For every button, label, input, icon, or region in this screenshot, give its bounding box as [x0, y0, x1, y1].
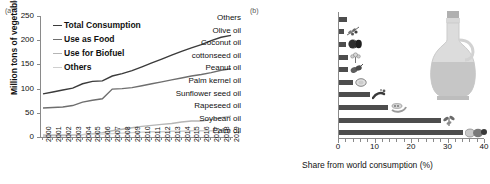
x-tick-mark — [477, 139, 478, 142]
x-tick-mark — [82, 137, 83, 140]
bar — [339, 42, 346, 47]
x-tick-label: 40 — [480, 143, 489, 151]
x-tick-mark — [210, 137, 211, 140]
bar-row — [339, 89, 386, 102]
bar-row — [339, 76, 367, 89]
bar — [339, 55, 348, 60]
category-label: cottonseed oil — [192, 52, 241, 60]
x-tick-mark — [462, 139, 463, 142]
x-tick-mark — [111, 137, 112, 140]
category-label: Rapeseed oil — [194, 102, 241, 110]
x-tick-mark — [220, 137, 221, 140]
x-tick-mark — [121, 137, 122, 140]
category-label: Peanut oil — [205, 64, 241, 72]
y-tick-label: 50 — [12, 109, 34, 117]
x-tick-mark — [131, 137, 132, 140]
legend-label: Use as Food — [64, 34, 115, 44]
x-tick-mark — [382, 139, 383, 142]
panel-b-label: (b) — [250, 7, 259, 14]
coconut-icon — [348, 39, 362, 49]
bar-row — [339, 38, 362, 51]
bar — [339, 130, 463, 135]
x-axis-b: 010203040 — [338, 138, 484, 139]
legend-swatch-icon — [53, 67, 62, 68]
x-tick-mark — [190, 137, 191, 140]
x-tick-mark — [345, 139, 346, 142]
legend-item: Use for Biofuel — [53, 46, 141, 60]
bar-row — [339, 101, 408, 114]
bar-row — [339, 114, 456, 127]
x-tick-label: 10 — [370, 143, 379, 151]
x-tick-mark — [360, 139, 361, 142]
bar — [339, 67, 348, 72]
x-tick-mark — [418, 139, 419, 142]
category-label: Olive oil — [213, 27, 241, 35]
x-tick-mark — [440, 139, 441, 142]
figure-container: (a) Million tons of vegetable oil 050100… — [0, 0, 490, 184]
category-label: Palm kernel oil — [189, 77, 241, 85]
bar — [339, 118, 441, 123]
x-tick-label: 20 — [407, 143, 416, 151]
x-tick-mark — [62, 137, 63, 140]
y-tick-label: 0 — [12, 133, 34, 141]
legend-item: Others — [53, 60, 141, 74]
bar — [339, 92, 370, 97]
x-tick-mark — [426, 139, 427, 142]
bar-row — [339, 26, 360, 39]
cotton-boll-icon — [350, 51, 361, 63]
bar — [339, 29, 344, 34]
category-label: Sunflower seed oil — [176, 90, 241, 98]
legend-a: Total Consumption Use as Food Use for Bi… — [53, 18, 141, 74]
y-tick-label: 100 — [12, 85, 34, 93]
x-tick-mark — [455, 139, 456, 142]
peanut-icon — [350, 64, 363, 75]
y-tick-label: 200 — [12, 36, 34, 44]
x-tick-mark — [52, 137, 53, 140]
x-tick-mark — [151, 137, 152, 140]
y-tick-label: 150 — [12, 60, 34, 68]
x-tick-mark — [42, 137, 43, 140]
legend-swatch-icon — [53, 53, 62, 54]
y-tick-label: 250 — [12, 12, 34, 20]
bar — [339, 17, 347, 22]
panel-b-bar-chart: (b) Palm oilSoybean oilRapeseed oilSunfl… — [245, 0, 490, 184]
legend-label: Others — [64, 62, 91, 72]
x-tick-mark — [171, 137, 172, 140]
bar — [339, 80, 353, 85]
x-tick-mark — [141, 137, 142, 140]
bar-row — [339, 51, 361, 64]
x-tick-mark — [353, 139, 354, 142]
soybean-plant-icon — [443, 114, 456, 127]
legend-label: Use for Biofuel — [64, 48, 124, 58]
x-tick-mark — [367, 139, 368, 142]
category-label: Palm oil — [213, 127, 241, 135]
x-tick-mark — [404, 139, 405, 142]
x-tick-mark — [389, 139, 390, 142]
legend-swatch-icon — [53, 39, 62, 40]
sunflower-seed-icon — [372, 89, 386, 101]
x-tick-label: 30 — [443, 143, 452, 151]
x-tick-mark — [433, 139, 434, 142]
x-tick-mark — [181, 137, 182, 140]
category-label: Soybean oil — [199, 115, 241, 123]
x-tick-mark — [72, 137, 73, 140]
x-tick-mark — [101, 137, 102, 140]
x-tick-mark — [91, 137, 92, 140]
palm-fruit-icon — [465, 128, 487, 138]
legend-label: Total Consumption — [64, 20, 141, 30]
olive-branch-icon — [346, 26, 360, 37]
palm-kernel-icon — [355, 78, 367, 87]
legend-swatch-icon — [53, 25, 62, 26]
category-label: Others — [217, 14, 241, 22]
x-tick-mark — [161, 137, 162, 140]
x-tick-mark — [396, 139, 397, 142]
bar — [339, 105, 388, 110]
x-tick-mark — [469, 139, 470, 142]
bar-row — [339, 63, 363, 76]
x-tick-label: 0 — [336, 143, 340, 151]
plot-area-b — [338, 12, 484, 138]
bar-row — [339, 13, 347, 26]
x-axis-title-b: Share from world consumption (%) — [245, 160, 490, 170]
x-tick-mark — [200, 137, 201, 140]
rapeseed-pod-icon — [390, 102, 408, 113]
